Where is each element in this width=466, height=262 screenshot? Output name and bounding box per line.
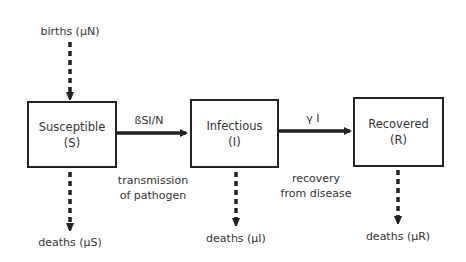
recovery-rate-label: γ I bbox=[293, 112, 333, 125]
transmission-rate-label: ßSI/N bbox=[124, 114, 174, 127]
susceptible-name: Susceptible bbox=[39, 119, 106, 135]
susceptible-box: Susceptible (S) bbox=[27, 101, 117, 168]
transmission-description-line1: transmission bbox=[112, 174, 194, 187]
recovered-symbol: (R) bbox=[390, 132, 407, 148]
recovered-box: Recovered (R) bbox=[353, 97, 444, 167]
recovery-description-line2: from disease bbox=[274, 187, 358, 200]
infectious-box: Infectious (I) bbox=[190, 99, 279, 168]
infectious-symbol: (I) bbox=[228, 134, 240, 150]
deaths-i-label: deaths (μI) bbox=[191, 232, 281, 245]
deaths-s-label: deaths (μS) bbox=[25, 236, 115, 249]
susceptible-symbol: (S) bbox=[64, 135, 80, 151]
infectious-name: Infectious bbox=[206, 118, 262, 134]
births-label: births (μN) bbox=[30, 25, 110, 38]
recovery-description-line1: recovery bbox=[274, 172, 358, 185]
transmission-description-line2: of pathogen bbox=[112, 189, 194, 202]
deaths-r-label: deaths (μR) bbox=[353, 230, 443, 243]
recovered-name: Recovered bbox=[368, 116, 429, 132]
